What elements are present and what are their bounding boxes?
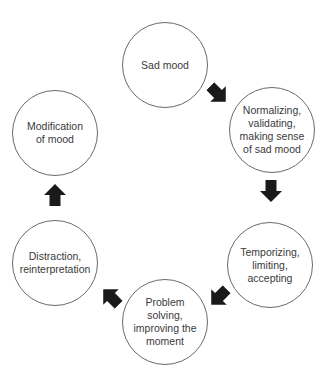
node-temporizing: Temporizing, limiting, accepting bbox=[227, 222, 313, 308]
node-normalizing: Normalizing, validating, making sense of… bbox=[229, 87, 315, 173]
node-label: Modification of mood bbox=[21, 120, 89, 146]
node-label: Problem solving, improving the moment bbox=[127, 296, 202, 348]
node-label: Sad mood bbox=[135, 59, 195, 72]
node-modification: Modification of mood bbox=[12, 90, 98, 176]
node-distraction: Distraction, reinterpretation bbox=[12, 220, 98, 306]
arrow-up-icon bbox=[44, 184, 66, 206]
node-problem-solving: Problem solving, improving the moment bbox=[122, 279, 208, 365]
arrow-down-icon bbox=[260, 180, 282, 202]
arrow-up-left-icon bbox=[95, 281, 126, 312]
cut-off-header bbox=[90, 0, 240, 4]
node-sad-mood: Sad mood bbox=[122, 22, 208, 108]
node-label: Normalizing, validating, making sense of… bbox=[234, 104, 311, 156]
node-label: Temporizing, limiting, accepting bbox=[234, 246, 306, 285]
node-label: Distraction, reinterpretation bbox=[14, 250, 97, 276]
arrow-down-right-icon bbox=[202, 78, 233, 109]
arrow-down-left-icon bbox=[203, 281, 234, 312]
